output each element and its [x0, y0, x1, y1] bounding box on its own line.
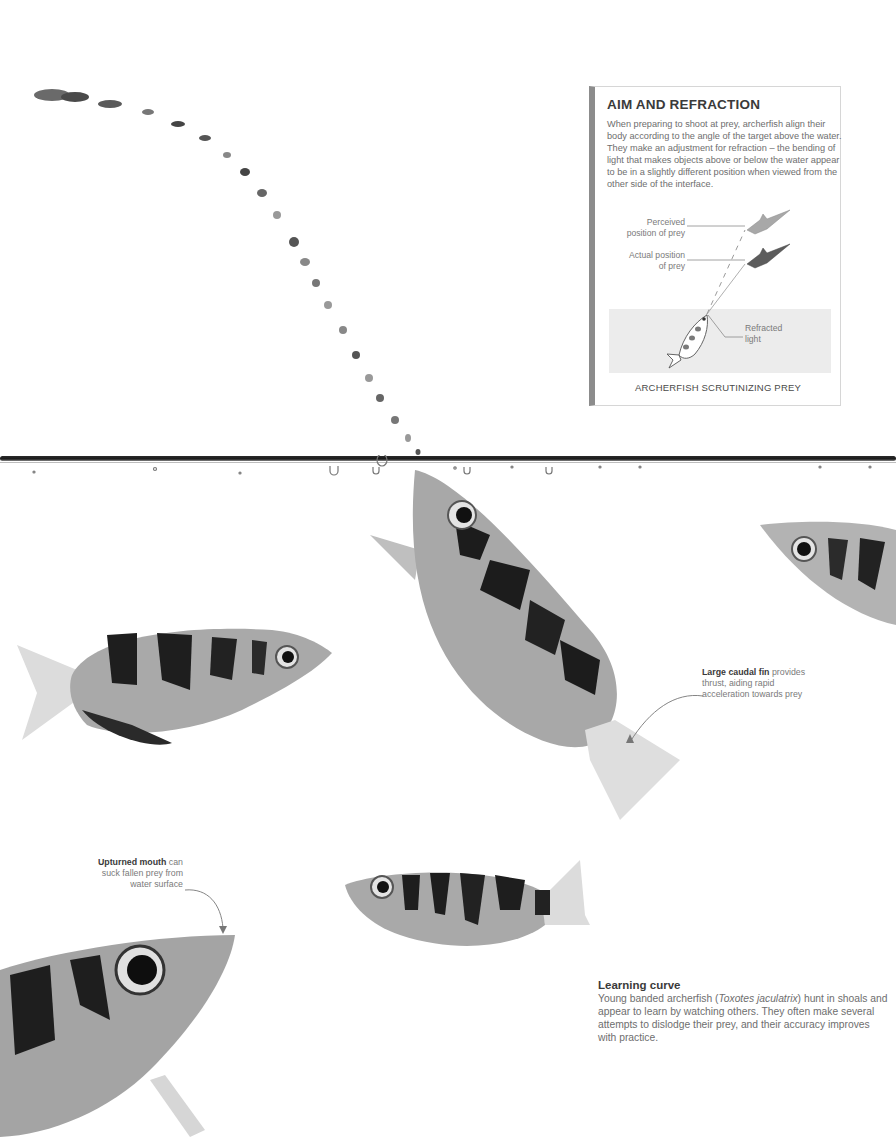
label-perceived-position: Perceived position of prey: [615, 217, 685, 239]
fish-small-center: [340, 855, 595, 970]
label-refracted-light: Refracted light: [745, 323, 815, 345]
label-actual-position: Actual position of prey: [615, 250, 685, 272]
caudal-fin-bold: Large caudal fin: [702, 667, 769, 677]
learning-curve-section: Learning curve Young banded archerfish (…: [598, 979, 888, 1044]
learning-curve-title: Learning curve: [598, 979, 888, 991]
refraction-diagram: Perceived position of prey Actual positi…: [595, 202, 841, 407]
fish-center-upturned: [360, 460, 700, 830]
mouth-leader-arrow: [183, 884, 233, 936]
aim-refraction-box: AIM AND REFRACTION When preparing to sho…: [589, 86, 841, 406]
species-name: Toxotes jaculatrix: [718, 993, 797, 1004]
infobox-title: AIM AND REFRACTION: [607, 97, 760, 112]
learning-curve-body: Young banded archerfish (Toxotes jaculat…: [598, 992, 888, 1044]
mouth-text-1: can: [166, 857, 183, 867]
mouth-text-3: water surface: [130, 879, 183, 889]
mouth-bold: Upturned mouth: [98, 857, 166, 867]
diagram-caption: ARCHERFISH SCRUTINIZING PREY: [595, 382, 841, 393]
label-actual-1: Actual position: [629, 250, 685, 260]
learning-body-1: Young banded archerfish (: [598, 993, 718, 1004]
diagram-fish-icon: [667, 315, 708, 368]
label-refracted-1: Refracted: [745, 323, 782, 333]
caudal-fin-text-3: acceleration towards prey: [702, 689, 802, 699]
caudal-fin-leader-arrow: [620, 690, 710, 750]
caudal-fin-text-1: provides: [769, 667, 805, 677]
label-perceived-1: Perceived: [647, 217, 685, 227]
fish-right-partial: [760, 520, 896, 635]
fish-left-side: [12, 615, 337, 755]
mouth-text-2: suck fallen prey from: [102, 868, 183, 878]
caudal-fin-annotation: Large caudal fin provides thrust, aiding…: [702, 667, 842, 700]
caudal-fin-text-2: thrust, aiding rapid: [702, 678, 774, 688]
label-perceived-2: position of prey: [627, 228, 685, 238]
label-actual-2: of prey: [659, 261, 685, 271]
mouth-annotation: Upturned mouth can suck fallen prey from…: [80, 857, 183, 890]
label-refracted-2: light: [745, 334, 761, 344]
fish-bottom-left-closeup: [0, 930, 240, 1137]
infobox-body: When preparing to shoot at prey, archerf…: [607, 118, 843, 190]
